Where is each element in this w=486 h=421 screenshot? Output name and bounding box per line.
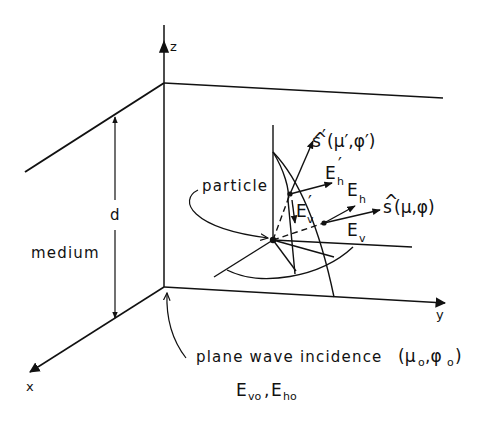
medium-label: medium <box>31 244 100 262</box>
svg-text:ho: ho <box>283 390 297 403</box>
z-axis-label: z <box>170 39 177 54</box>
svg-text:s: s <box>383 197 392 217</box>
svg-text:E: E <box>325 163 336 183</box>
svg-text:E: E <box>236 380 247 400</box>
top-right-edge <box>164 83 443 98</box>
x-axis-label: x <box>26 379 34 394</box>
svg-text:(μ,φ): (μ,φ) <box>394 197 435 217</box>
svg-text:(μ′,φ′): (μ′,φ′) <box>327 131 375 151</box>
scattering-geometry-diagram: z x y d medium part <box>0 0 486 421</box>
y-axis <box>164 287 445 303</box>
svg-text:o: o <box>447 356 454 369</box>
svg-text:h: h <box>359 193 366 206</box>
e-h-prime-label: E h ′ <box>325 154 344 188</box>
svg-text:v: v <box>307 213 314 226</box>
svg-text:E: E <box>271 380 282 400</box>
svg-text:): ) <box>455 346 462 366</box>
svg-text:E: E <box>347 220 358 240</box>
incident-fields-label: E vo , E ho <box>236 380 297 403</box>
particle-pointer-arrow <box>189 190 268 238</box>
depth-label: d <box>110 206 121 224</box>
incident-direction-label: ^ s ′ (μ′,φ′) <box>312 126 375 151</box>
particle-label: particle <box>202 177 268 195</box>
svg-text:′: ′ <box>322 126 326 146</box>
top-left-edge <box>25 83 164 172</box>
y-axis-label: y <box>436 307 444 322</box>
incident-point-dot <box>287 191 292 196</box>
svg-text:′: ′ <box>338 154 342 174</box>
svg-text:′: ′ <box>308 192 312 212</box>
scattered-point-dot <box>321 220 326 225</box>
svg-text:v: v <box>359 232 366 245</box>
e-v-label: E v <box>347 220 366 245</box>
e-v-prime-label: E v ′ <box>296 192 314 226</box>
svg-text:(μ: (μ <box>398 346 416 366</box>
svg-text:E: E <box>296 201 307 221</box>
svg-text:plane wave incidence: plane wave incidence <box>196 348 383 366</box>
medium-layer <box>25 83 443 172</box>
z-axis-arrowhead-icon <box>160 42 168 52</box>
svg-text:h: h <box>337 175 344 188</box>
svg-text:o: o <box>418 356 425 369</box>
svg-text:s: s <box>312 131 321 151</box>
svg-text:vo: vo <box>248 390 262 403</box>
scattered-direction-label: ^ s (μ,φ) <box>383 191 435 217</box>
svg-text:E: E <box>347 180 358 200</box>
incidence-label: plane wave incidence (μ o ,φ o ) <box>196 346 462 369</box>
particle-dot <box>270 237 276 243</box>
incidence-pointer-arrow <box>167 293 186 358</box>
e-h-label: E h <box>347 180 366 206</box>
x-axis <box>30 287 164 372</box>
svg-text:,: , <box>264 380 269 400</box>
svg-text:,φ: ,φ <box>425 346 442 366</box>
